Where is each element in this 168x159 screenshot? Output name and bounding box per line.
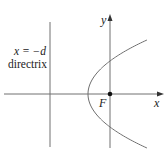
y-axis-label: y [100,13,107,27]
y-axis-arrowhead [108,14,113,21]
x-axis-label: x [153,96,160,110]
focus-point [108,92,113,97]
directrix-equation-label: x = −d [13,45,46,57]
parabola-diagram: y x F x = −d directrix [0,0,168,159]
directrix-label: directrix [8,58,47,70]
focus-label: F [98,96,107,110]
